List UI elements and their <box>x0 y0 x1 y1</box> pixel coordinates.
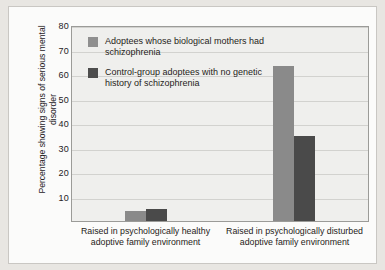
gridline-40 <box>72 125 368 126</box>
legend-label: Control-group adoptees with no genetic h… <box>105 67 266 89</box>
figure-container: Percentage showing signs of serious ment… <box>0 0 385 270</box>
bar-disturbed-control-group <box>294 136 315 221</box>
bar-healthy-schizophrenia-mothers <box>125 211 146 221</box>
y-axis-tick-labels: 80 70 60 50 40 30 20 10 <box>43 26 69 222</box>
y-tick-20: 20 <box>59 169 69 178</box>
legend: Adoptees whose biological mothers had sc… <box>88 36 266 98</box>
gridline-30 <box>72 150 368 151</box>
plot-area: Adoptees whose biological mothers had sc… <box>71 26 369 222</box>
gridline-50 <box>72 101 368 102</box>
legend-swatch-dark-icon <box>88 68 98 78</box>
y-tick-70: 70 <box>59 46 69 55</box>
legend-item-control-group: Control-group adoptees with no genetic h… <box>88 67 266 89</box>
x-axis-category-labels: Raised in psychologically healthy adopti… <box>71 226 369 270</box>
y-tick-10: 10 <box>59 193 69 202</box>
category-label-healthy: Raised in psychologically healthy adopti… <box>71 226 220 270</box>
gridline-80 <box>72 27 368 28</box>
legend-item-schizophrenia-mothers: Adoptees whose biological mothers had sc… <box>88 36 266 58</box>
bar-healthy-control-group <box>146 209 167 221</box>
bar-disturbed-schizophrenia-mothers <box>273 66 294 221</box>
legend-label: Adoptees whose biological mothers had sc… <box>105 36 266 58</box>
chart-frame: Percentage showing signs of serious ment… <box>8 6 377 264</box>
gridline-10 <box>72 199 368 200</box>
y-tick-50: 50 <box>59 95 69 104</box>
y-tick-60: 60 <box>59 71 69 80</box>
gridline-20 <box>72 174 368 175</box>
y-tick-40: 40 <box>59 120 69 129</box>
legend-swatch-light-icon <box>88 37 98 47</box>
y-tick-80: 80 <box>59 22 69 31</box>
category-label-disturbed: Raised in psychologically disturbed adop… <box>220 226 369 270</box>
y-tick-30: 30 <box>59 144 69 153</box>
